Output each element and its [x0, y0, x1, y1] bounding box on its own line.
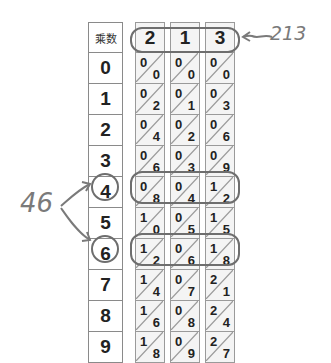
units-digit: 0 [188, 67, 195, 82]
circle-6 [91, 235, 119, 263]
units-digit: 4 [223, 315, 230, 330]
units-digit: 4 [153, 284, 160, 299]
tens-digit: 0 [175, 334, 182, 349]
units-digit: 9 [188, 346, 195, 361]
units-digit: 1 [188, 98, 195, 113]
multiplier-7: 7 [88, 270, 123, 301]
tens-digit: 0 [175, 55, 182, 70]
tens-digit: 0 [175, 86, 182, 101]
rod-cell: 27 [205, 332, 235, 363]
rod-cell: 03 [205, 84, 235, 115]
rod-cell: 16 [135, 301, 165, 332]
multiplier-2: 2 [88, 115, 123, 146]
rod-cell: 09 [170, 332, 200, 363]
units-digit: 4 [153, 129, 160, 144]
multiplier-header: 乘数 [88, 22, 123, 53]
tens-digit: 0 [175, 303, 182, 318]
rod-cell: 24 [205, 301, 235, 332]
rod-cell: 01 [170, 84, 200, 115]
units-digit: 8 [153, 346, 160, 361]
tens-digit: 0 [140, 117, 147, 132]
multiplier-8: 8 [88, 301, 123, 332]
tens-digit: 0 [210, 55, 217, 70]
circle-4 [91, 173, 119, 201]
rod-cell: 00 [170, 53, 200, 84]
rod-cell: 00 [135, 53, 165, 84]
tens-digit: 0 [210, 148, 217, 163]
rod-cell: 02 [135, 84, 165, 115]
tens-digit: 0 [175, 272, 182, 287]
rod-cell: 08 [170, 301, 200, 332]
units-digit: 3 [223, 98, 230, 113]
tens-digit: 0 [175, 210, 182, 225]
tens-digit: 0 [140, 86, 147, 101]
rod-cell: 18 [135, 332, 165, 363]
multiplicand-highlight [130, 27, 240, 53]
tens-digit: 2 [210, 303, 217, 318]
rod-cell: 06 [205, 115, 235, 146]
tens-digit: 0 [140, 55, 147, 70]
rod-cell: 00 [205, 53, 235, 84]
tens-digit: 1 [140, 210, 147, 225]
tens-digit: 0 [210, 117, 217, 132]
tens-digit: 1 [140, 272, 147, 287]
tens-digit: 0 [175, 148, 182, 163]
rod-cell: 14 [135, 270, 165, 301]
tens-digit: 0 [175, 117, 182, 132]
row-4-highlight [130, 171, 240, 204]
multiplicand-annotation: 213 [270, 22, 306, 44]
multiplier-0: 0 [88, 53, 123, 84]
multiplier-1: 1 [88, 84, 123, 115]
tens-digit: 1 [210, 210, 217, 225]
multiplier-9: 9 [88, 332, 123, 363]
units-digit: 0 [223, 67, 230, 82]
units-digit: 6 [223, 129, 230, 144]
rod-cell: 07 [170, 270, 200, 301]
tens-digit: 2 [210, 334, 217, 349]
units-digit: 1 [223, 284, 230, 299]
tens-digit: 0 [210, 86, 217, 101]
rod-cell: 02 [170, 115, 200, 146]
units-digit: 0 [153, 67, 160, 82]
units-digit: 2 [153, 98, 160, 113]
rod-cell: 04 [135, 115, 165, 146]
multiplier-annotation: 46 [20, 188, 53, 218]
units-digit: 7 [188, 284, 195, 299]
rod-cell: 21 [205, 270, 235, 301]
units-digit: 6 [153, 315, 160, 330]
tens-digit: 0 [140, 148, 147, 163]
units-digit: 7 [223, 346, 230, 361]
tens-digit: 1 [140, 303, 147, 318]
units-digit: 2 [188, 129, 195, 144]
tens-digit: 2 [210, 272, 217, 287]
tens-digit: 1 [140, 334, 147, 349]
arrows-to-rows-icon [58, 178, 94, 248]
arrow-to-multiplicand-icon [240, 28, 274, 44]
row-6-highlight [130, 233, 240, 266]
units-digit: 8 [188, 315, 195, 330]
